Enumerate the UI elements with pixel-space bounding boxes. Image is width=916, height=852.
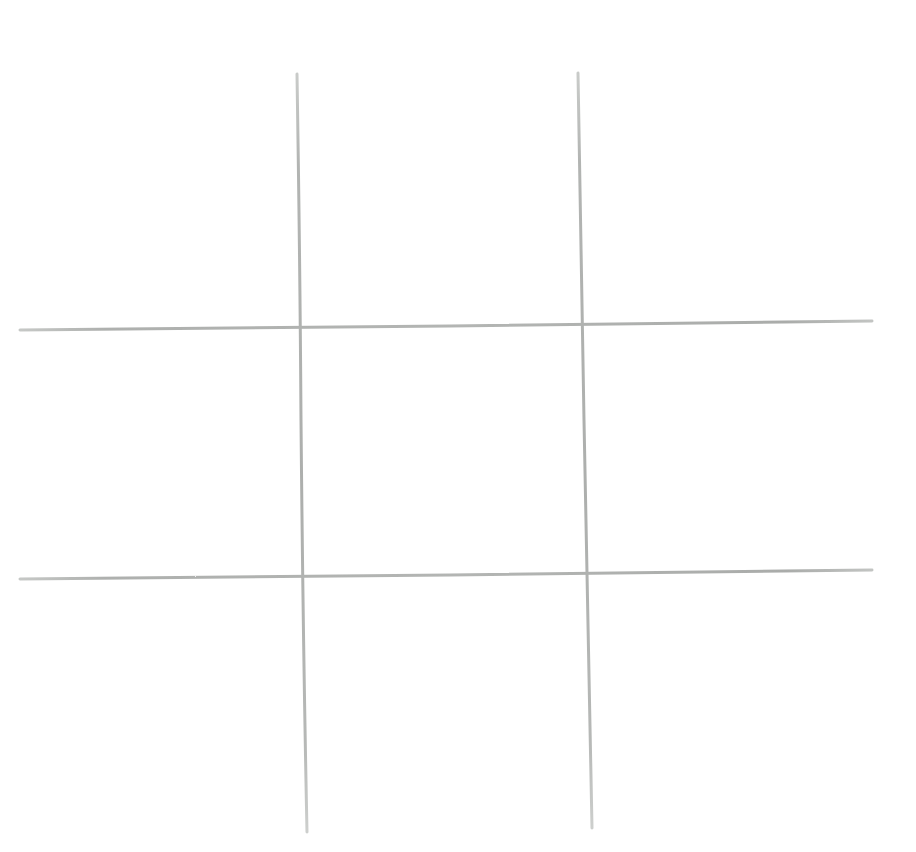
tic-tac-toe-board: [0, 0, 916, 852]
cell-center[interactable]: [302, 327, 585, 576]
cell-middle-right[interactable]: [586, 324, 872, 573]
cell-bottom-right[interactable]: [590, 575, 872, 827]
cell-bottom-left[interactable]: [20, 580, 303, 832]
cell-middle-left[interactable]: [20, 330, 300, 578]
cell-top-right[interactable]: [583, 60, 872, 324]
cell-top-center[interactable]: [300, 60, 581, 326]
cell-bottom-center[interactable]: [305, 578, 589, 830]
cell-top-left[interactable]: [20, 60, 298, 328]
